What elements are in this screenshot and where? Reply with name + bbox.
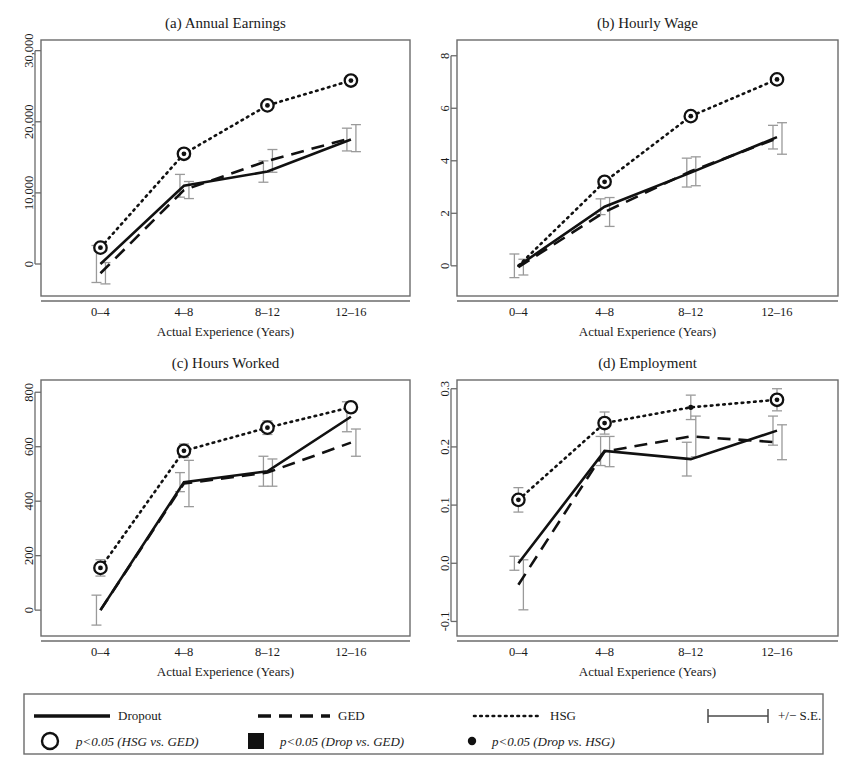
panel-c-errorbar <box>351 429 361 456</box>
panel-b-ytick-label: 4 <box>438 157 452 164</box>
panel-b-title: (b) Hourly Wage <box>597 15 698 32</box>
panel-d-xlabel: Actual Experience (Years) <box>579 664 716 679</box>
legend-circle-icon <box>42 733 58 749</box>
panel-a-xtick-label: 12–16 <box>335 305 366 319</box>
legend-dot-icon <box>468 737 476 745</box>
panel-c-xtick-label: 8–12 <box>255 645 280 659</box>
legend-circle-label: p<0.05 (HSG vs. GED) <box>75 734 199 749</box>
legend-hsg-label: HSG <box>550 708 576 723</box>
panel-c-ytick-label: 800 <box>22 383 36 402</box>
panel-c-sig-marker-circle-dot <box>261 421 273 433</box>
panel-a-xlabel: Actual Experience (Years) <box>157 324 294 339</box>
panel-a-xtick-label: 4–8 <box>175 305 194 319</box>
panel-b-sig-marker-circle-dot <box>598 176 610 188</box>
panel-c-sig-marker-circle-open <box>345 401 357 413</box>
panel-c-ytick-label: 200 <box>22 546 36 565</box>
panel-a-xtick-label: 8–12 <box>255 305 280 319</box>
panel-b-errorbar <box>777 123 787 155</box>
panel-d-sig-marker-circle-dot <box>771 394 783 406</box>
panel-c-xtick-label: 4–8 <box>175 645 194 659</box>
panel-c-ytick-label: 400 <box>22 492 36 511</box>
panel-d-ytick-label: 0.3 <box>438 381 452 397</box>
panel-a-errorbar <box>351 125 361 152</box>
panel-c-series-hsg <box>100 407 350 568</box>
panel-a-series-hsg <box>100 81 350 248</box>
panel-d-title: (d) Employment <box>598 355 698 372</box>
panel-d-errorbar <box>777 425 787 460</box>
panel-a-ytick-label: 0 <box>22 261 36 267</box>
panel-c-ytick-label: 600 <box>22 437 36 456</box>
panel-a-ytick-label: 10,000 <box>22 176 36 210</box>
panel-d-plot-box <box>457 380 838 636</box>
panel-b-ytick-label: 6 <box>438 105 452 111</box>
panel-c-ytick-label: 0 <box>22 607 36 613</box>
panel-b-series-dropout <box>518 137 777 266</box>
panel-d-series-dropout <box>518 431 777 564</box>
panel-c-xtick-label: 0–4 <box>91 645 111 659</box>
panel-c-series-ged <box>100 443 350 610</box>
panel-d-ytick-label: -0.1 <box>438 612 452 632</box>
panel-b-xtick-label: 0–4 <box>509 305 529 319</box>
panel-d-errorbar <box>509 556 519 570</box>
panel-b-errorbar <box>605 198 615 227</box>
panel-d-ytick-label: 0.2 <box>438 439 452 455</box>
panel-c-title: (c) Hours Worked <box>172 355 280 372</box>
panel-c-series-dropout <box>100 417 350 610</box>
panel-b-series-ged <box>518 138 777 267</box>
panel-a-sig-marker-circle-dot <box>94 241 106 253</box>
panel-c: (c) Hours Worked02004006008000–44–88–121… <box>22 355 410 679</box>
legend-square-label: p<0.05 (Drop vs. GED) <box>279 734 404 749</box>
legend-dot-label: p<0.05 (Drop vs. HSG) <box>491 734 615 749</box>
panel-c-sig-marker-circle-dot <box>178 445 190 457</box>
panel-d-xtick-label: 8–12 <box>678 645 703 659</box>
panel-b: (b) Hourly Wage024680–44–88–1212–16Actua… <box>438 15 838 339</box>
panel-a-xtick-label: 0–4 <box>91 305 111 319</box>
panel-c-sig-marker-circle-dot <box>94 562 106 574</box>
panel-a-sig-marker-circle-dot <box>345 74 357 86</box>
panel-a-ytick-label: 30,000 <box>22 33 36 67</box>
panel-b-xtick-label: 12–16 <box>761 305 792 319</box>
panel-d-sig-marker-circle-dot <box>598 417 610 429</box>
panel-a-series-dropout <box>100 140 350 264</box>
panel-d-sig-marker-dot <box>688 405 693 410</box>
panel-d-xtick-label: 12–16 <box>761 645 792 659</box>
figure-svg: (a) Annual Earnings010,00020,00030,0000–… <box>0 0 847 767</box>
panel-b-ytick-label: 8 <box>438 53 452 59</box>
legend-se-label: +/− S.E. <box>778 708 821 723</box>
panel-d: (d) Employment-0.10.00.10.20.30–44–88–12… <box>438 355 838 679</box>
panel-d-ytick-label: 0.1 <box>438 497 452 513</box>
legend: DropoutGEDHSG+/− S.E.p<0.05 (HSG vs. GED… <box>24 694 823 754</box>
panel-a-title: (a) Annual Earnings <box>165 15 286 32</box>
panel-b-sig-marker-circle-dot <box>771 73 783 85</box>
panel-d-xtick-label: 4–8 <box>595 645 614 659</box>
panel-d-ytick-label: 0.0 <box>438 555 452 571</box>
panel-a-ytick-label: 20,000 <box>22 105 36 139</box>
panel-a: (a) Annual Earnings010,00020,00030,0000–… <box>22 15 410 339</box>
panel-c-errorbar <box>91 595 101 625</box>
panel-d-xtick-label: 0–4 <box>509 645 529 659</box>
panel-b-sig-marker-circle-dot <box>685 110 697 122</box>
panel-a-sig-marker-circle-dot <box>261 99 273 111</box>
panel-d-series-hsg <box>518 400 777 500</box>
panel-b-xtick-label: 8–12 <box>678 305 703 319</box>
panel-a-sig-marker-circle-dot <box>178 148 190 160</box>
panel-c-xlabel: Actual Experience (Years) <box>157 664 294 679</box>
legend-square-icon <box>248 733 264 749</box>
panel-d-sig-marker-circle-dot <box>512 494 524 506</box>
legend-ged-label: GED <box>338 708 365 723</box>
panel-b-ytick-label: 2 <box>438 210 452 216</box>
panel-c-xtick-label: 12–16 <box>335 645 366 659</box>
legend-dropout-label: Dropout <box>118 708 162 723</box>
panel-b-xlabel: Actual Experience (Years) <box>579 324 716 339</box>
figure-root: (a) Annual Earnings010,00020,00030,0000–… <box>0 0 847 767</box>
panel-b-ytick-label: 0 <box>438 263 452 269</box>
panel-b-xtick-label: 4–8 <box>595 305 614 319</box>
